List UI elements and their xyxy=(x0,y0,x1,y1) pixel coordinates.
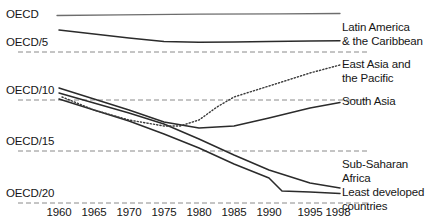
income-ratio-line-chart: OECD OECD/5 OECD/10 OECD/15 OECD/20 1960… xyxy=(0,0,429,223)
series-label-south-asia: South Asia xyxy=(342,95,396,109)
series-line-sub-saharan-africa xyxy=(59,93,340,188)
series-label-sub-saharan-line1: Sub-Saharan xyxy=(342,158,408,172)
series-label-latin-america: Latin America & the Caribbean xyxy=(342,21,423,48)
series-label-east-asia-line1: East Asia and xyxy=(342,58,410,72)
xtick-label-1990: 1990 xyxy=(247,206,291,218)
series-line-east-asia-pacific xyxy=(62,65,340,126)
series-label-east-asia-pacific: East Asia and the Pacific xyxy=(342,58,410,85)
ytick-label-oecd-15: OECD/15 xyxy=(6,135,54,147)
series-line-south-asia xyxy=(59,88,340,128)
ytick-label-oecd-20: OECD/20 xyxy=(6,187,54,199)
series-label-east-asia-line2: the Pacific xyxy=(342,72,410,86)
series-label-sub-saharan-africa: Sub-Saharan Africa xyxy=(342,158,408,185)
series-line-oecd xyxy=(57,14,340,16)
series-label-least-dev-line2: countries xyxy=(342,200,424,214)
ytick-label-oecd-5: OECD/5 xyxy=(6,36,48,48)
series-label-latin-america-line1: Latin America xyxy=(342,21,423,35)
series-line-latin-america xyxy=(59,30,340,42)
ytick-label-oecd: OECD xyxy=(6,8,39,20)
series-label-least-dev-line1: Least developed xyxy=(342,186,424,200)
series-label-sub-saharan-line2: Africa xyxy=(342,172,408,186)
series-label-least-developed-countries: Least developed countries xyxy=(342,186,424,213)
series-label-latin-america-line2: & the Caribbean xyxy=(342,35,423,49)
ytick-label-oecd-10: OECD/10 xyxy=(6,84,54,96)
